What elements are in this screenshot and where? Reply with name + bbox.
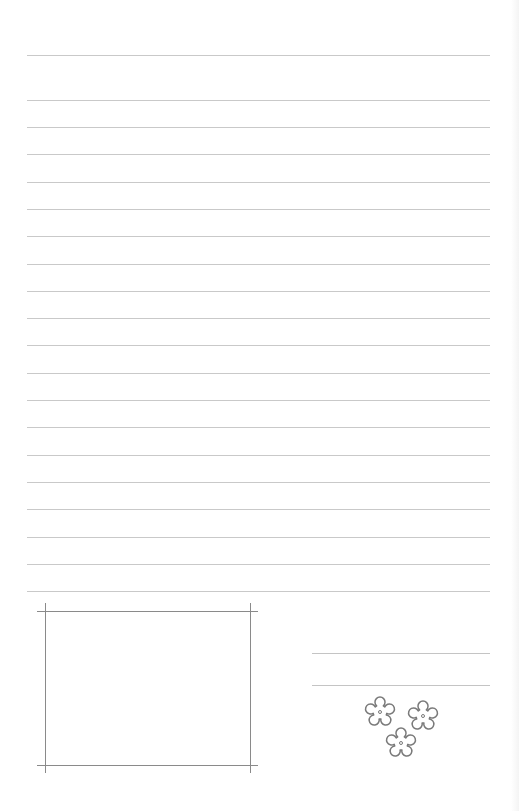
ruled-line [27, 209, 490, 210]
ruled-line [27, 482, 490, 483]
ruled-line [27, 182, 490, 183]
ruled-line [27, 291, 490, 292]
frame-edge-vertical [250, 603, 251, 773]
ruled-line [27, 455, 490, 456]
ruled-line [27, 55, 490, 56]
frame-edge-horizontal [37, 611, 258, 612]
flower-icon [409, 701, 438, 729]
flower-cluster-icon [355, 690, 455, 770]
ruled-line [27, 591, 490, 592]
ruled-line [27, 509, 490, 510]
ruled-line [27, 264, 490, 265]
ruled-line [27, 537, 490, 538]
ruled-line [27, 236, 490, 237]
frame-edge-horizontal [37, 765, 258, 766]
ruled-line [27, 100, 490, 101]
ruled-line [27, 127, 490, 128]
ruled-line [27, 427, 490, 428]
ruled-line [27, 400, 490, 401]
ruled-line [27, 564, 490, 565]
signature-line [312, 653, 490, 654]
ruled-line [27, 318, 490, 319]
flower-icon [366, 697, 395, 725]
page-edge-shadow [511, 0, 519, 811]
flower-icon [387, 728, 416, 756]
ruled-line [27, 154, 490, 155]
ruled-line [27, 345, 490, 346]
frame-edge-vertical [45, 603, 46, 773]
signature-line [312, 685, 490, 686]
ruled-line [27, 373, 490, 374]
